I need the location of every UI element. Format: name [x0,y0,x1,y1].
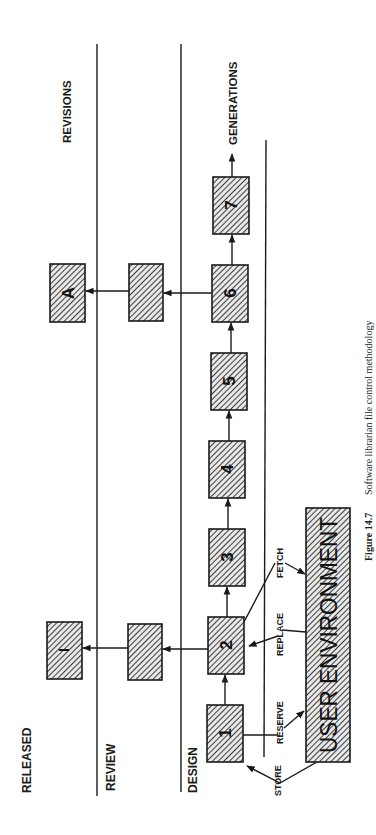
generation-box-4: 4 [209,441,245,498]
svg-text:3: 3 [218,552,237,561]
svg-text:7: 7 [222,200,241,209]
arrow-fetch [285,563,305,574]
arrow-reserve [284,711,304,728]
lane-label-review: REVIEW [104,743,118,791]
generations-label: GENERATIONS [227,61,239,145]
design-user-divider [264,140,266,757]
line-replace [282,630,306,632]
figure-number: Figure 14.7 [363,513,374,561]
svg-text:USER ENVIRONMENT: USER ENVIRONMENT [315,517,342,753]
generation-box-3: 3 [209,529,245,586]
arrow-replace [249,636,278,646]
svg-text:5: 5 [220,376,239,385]
svg-text:4: 4 [218,464,237,474]
generation-box-7: 7 [213,177,249,234]
svg-text:A: A [59,287,78,299]
svg-text:I: I [56,648,72,652]
lane-label-released: RELEASED [20,727,34,793]
released-box-I: I [47,622,82,679]
op-label-reserve: RESERVE [275,701,285,744]
generation-box-5: 5 [211,353,247,410]
figure-caption: Software librarian file control methodol… [363,321,374,495]
svg-text:1: 1 [216,728,235,737]
review-box-from-2 [128,624,162,680]
review-box-from-6 [129,264,163,321]
line-fetch [244,563,275,622]
file-control-diagram: RELEASED REVIEW DESIGN REVISIONS GENERAT… [0,0,376,835]
generation-box-1: 1 [207,705,243,762]
generation-box-2: 2 [208,617,244,674]
op-label-replace: REPLACE [275,613,285,656]
op-label-fetch: FETCH [275,548,285,578]
svg-text:6: 6 [221,288,240,297]
generation-box-6: 6 [212,265,248,322]
lane-label-design: DESIGN [186,747,200,793]
svg-text:2: 2 [217,640,236,649]
released-box-A: A [50,264,85,322]
revisions-label: REVISIONS [61,80,73,143]
user-environment-box: USER ENVIRONMENT [306,508,350,762]
